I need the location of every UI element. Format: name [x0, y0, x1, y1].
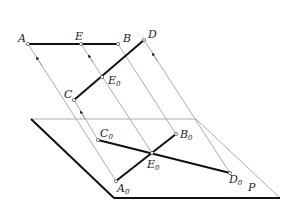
label-p: P	[247, 181, 256, 194]
label-c: C	[64, 88, 73, 101]
label-c0: C0	[100, 127, 113, 141]
label-b: B	[122, 32, 131, 45]
projection-diagram: A E B D E0 C C0 B0 E0 A0 D0 P	[0, 0, 295, 211]
line-c0d0	[98, 140, 230, 173]
label-d0: D0	[228, 173, 243, 187]
label-e0: E0	[146, 158, 160, 172]
points	[26, 38, 231, 182]
label-d: D	[147, 28, 157, 41]
label-a0: A0	[116, 182, 130, 196]
label-e0-upper: E0	[107, 74, 121, 88]
label-e: E	[74, 30, 83, 43]
label-a: A	[17, 32, 26, 45]
projection-lines	[28, 40, 230, 181]
label-b0: B0	[179, 128, 193, 142]
plane-p	[31, 119, 280, 198]
